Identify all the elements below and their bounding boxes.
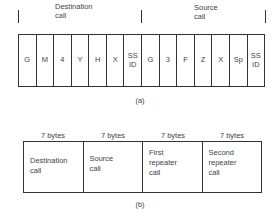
strip-cell: M: [37, 35, 55, 86]
group-label-line: call: [194, 12, 218, 21]
size-label: 7 bytes: [23, 131, 83, 140]
caption-b: (b): [128, 200, 152, 209]
divider-left: [18, 10, 19, 23]
size-label: 7 bytes: [83, 131, 143, 140]
strip-cell: 4: [54, 35, 72, 86]
strip-cell: 3: [160, 35, 178, 86]
strip-cell: G: [142, 35, 160, 86]
strip-cell: Sp: [230, 35, 248, 86]
strip-cell: Y: [72, 35, 90, 86]
address-field-strip: GM4YHXSS IDG3FZXSpSS ID: [18, 34, 265, 87]
group-label-source: Source call: [194, 3, 218, 21]
caption-a: (a): [128, 96, 152, 105]
group-label-line: Source: [194, 3, 218, 12]
table-cell: Second repeater call: [203, 142, 262, 192]
strip-cell: Z: [195, 35, 213, 86]
size-label: 7 bytes: [143, 131, 203, 140]
group-label-line: call: [55, 11, 93, 20]
strip-cell: SS ID: [124, 35, 142, 86]
strip-cell: SS ID: [248, 35, 265, 86]
divider-right: [265, 10, 266, 23]
table-cell: Source call: [84, 142, 144, 192]
strip-cell: H: [89, 35, 107, 86]
size-label: 7 bytes: [202, 131, 262, 140]
address-block-table: Destination callSource callFirst repeate…: [23, 141, 262, 193]
group-label-line: Destination: [55, 2, 93, 11]
strip-cell: G: [19, 35, 37, 86]
strip-cell: F: [177, 35, 195, 86]
table-cell: Destination call: [24, 142, 84, 192]
strip-cell: X: [212, 35, 230, 86]
divider-middle: [141, 10, 142, 23]
table-cell: First repeater call: [143, 142, 203, 192]
group-label-destination: Destination call: [55, 2, 93, 20]
strip-cell: X: [107, 35, 125, 86]
